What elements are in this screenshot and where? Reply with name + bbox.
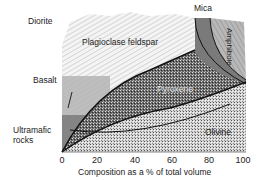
label-ultramafic-2: rocks [13,135,33,145]
x-tick-60: 60 [167,155,177,165]
x-tick-0: 0 [59,155,64,165]
label-amphibole: Amphibole [225,28,234,66]
label-mica: Mica [194,3,212,13]
label-diorite: Diorite [28,16,53,26]
x-tick-100: 100 [235,155,250,165]
label-ultramafic-1: Ultramafic [13,125,51,135]
x-tick-20: 20 [92,155,102,165]
x-tick-40: 40 [130,155,140,165]
x-axis-title: Composition as a % of total volume [78,167,211,177]
label-pyroxene: Pyroxene [157,84,193,94]
label-olivine: Olivine [205,127,231,137]
composition-diagram [0,0,264,180]
x-tick-80: 80 [204,155,214,165]
label-plagioclase-feldspar: Plagioclase feldspar [82,37,158,47]
label-basalt: Basalt [33,75,57,85]
